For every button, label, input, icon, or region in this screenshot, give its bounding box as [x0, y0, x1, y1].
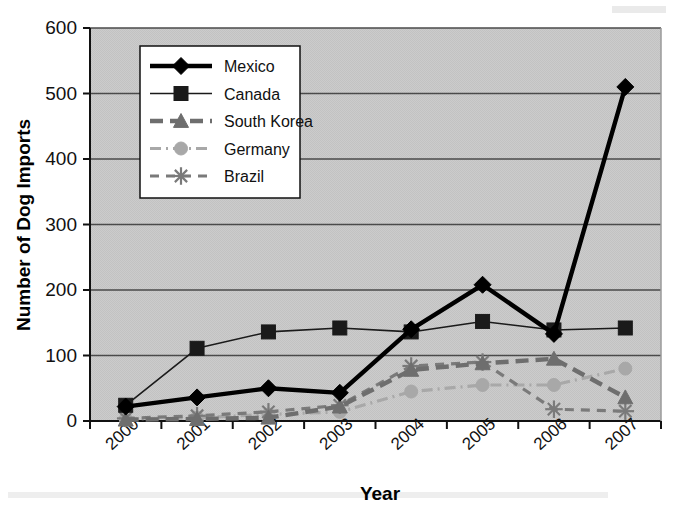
data-point-square — [174, 87, 188, 101]
y-tick-label: 100 — [45, 345, 77, 366]
data-point-circle — [476, 378, 489, 391]
legend-label: South Korea — [224, 113, 313, 130]
chart-legend[interactable]: MexicoCanadaSouth KoreaGermanyBrazil — [140, 46, 313, 198]
data-point-circle — [175, 142, 188, 155]
y-tick-label: 500 — [45, 83, 77, 104]
data-point-square — [190, 341, 204, 355]
scan-artifact — [612, 6, 666, 13]
data-point-asterisk — [172, 167, 190, 185]
data-point-circle — [619, 362, 632, 375]
data-point-square — [618, 321, 632, 335]
y-tick-label: 600 — [45, 17, 77, 38]
chart-container: 0100200300400500600 20002001200220032004… — [0, 0, 685, 514]
scan-artifact-bottom — [8, 492, 608, 498]
legend-label: Canada — [224, 86, 280, 103]
y-tick-label: 0 — [66, 410, 77, 431]
data-point-square — [261, 325, 275, 339]
data-point-asterisk — [617, 402, 635, 420]
x-axis-title: Year — [360, 483, 401, 504]
y-tick-label: 300 — [45, 214, 77, 235]
y-tick-label: 200 — [45, 279, 77, 300]
legend-label: Germany — [224, 141, 290, 158]
data-point-square — [476, 314, 490, 328]
legend-label: Mexico — [224, 58, 275, 75]
y-axis-title: Number of Dog Imports — [13, 119, 34, 331]
dog-imports-line-chart: 0100200300400500600 20002001200220032004… — [0, 0, 685, 514]
data-point-asterisk — [545, 400, 563, 418]
y-tick-label: 400 — [45, 148, 77, 169]
data-point-square — [333, 321, 347, 335]
data-point-circle — [547, 378, 560, 391]
legend-label: Brazil — [224, 168, 264, 185]
data-point-circle — [405, 385, 418, 398]
